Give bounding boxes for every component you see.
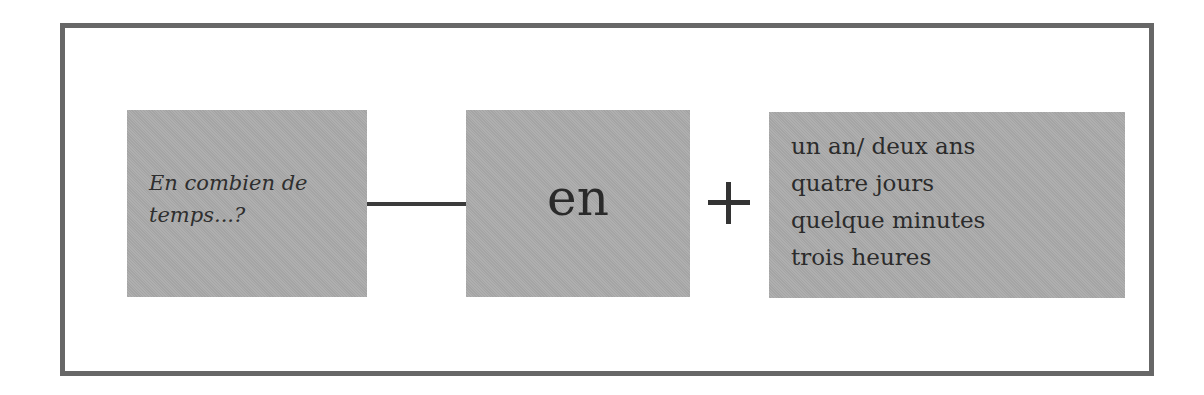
durations-list: un an/ deux ans quatre jours quelque min… [791,128,985,276]
question-line-1: En combien de [149,167,308,199]
question-line-2: temps...? [149,199,308,231]
duration-item: quelque minutes [791,202,985,239]
connector-line [367,202,466,206]
duration-item: un an/ deux ans [791,128,985,165]
question-box: En combien de temps...? [127,110,367,297]
durations-box: un an/ deux ans quatre jours quelque min… [769,112,1125,298]
preposition-text: en [466,168,690,228]
question-text: En combien de temps...? [149,167,308,231]
duration-item: quatre jours [791,165,985,202]
duration-item: trois heures [791,239,985,276]
preposition-box: en [466,110,690,297]
plus-icon [708,182,750,224]
